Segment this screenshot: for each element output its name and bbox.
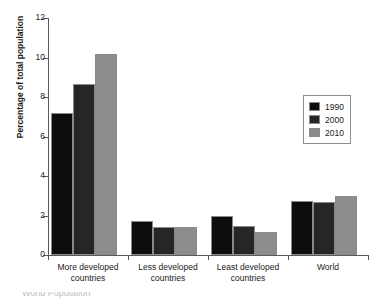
x-axis-label-line2: countries [48, 273, 128, 284]
bar-1990-less-developed-countries [131, 221, 153, 255]
x-axis-label-2: Least developedcountries [208, 262, 288, 284]
legend-label: 2010 [325, 128, 344, 138]
x-axis-label-0: More developedcountries [48, 262, 128, 284]
x-axis-label-3: World [288, 262, 368, 273]
y-axis-tick-label: 12 [36, 12, 45, 22]
legend-swatch-icon [309, 128, 320, 137]
y-axis-tick-label: 2 [40, 210, 45, 220]
bar-2010-least-developed-countries [255, 232, 277, 255]
x-axis-tick-mark [208, 255, 209, 260]
legend-label: 1990 [325, 102, 344, 112]
bar-group [211, 18, 277, 255]
x-axis-tick-mark [288, 255, 289, 260]
chart-figure: Percentage of total population 024681012… [0, 0, 382, 302]
bar-2000-more-developed-countries [73, 84, 95, 255]
x-axis-label-1: Less developedcountries [128, 262, 208, 284]
x-axis-label-line2: countries [128, 273, 208, 284]
bar-2010-less-developed-countries [175, 227, 197, 255]
y-axis-tick-label: 8 [40, 91, 45, 101]
chart-caption-cutoff: World Population [0, 292, 382, 302]
y-axis-tick-label: 6 [40, 131, 45, 141]
bar-2010-world [335, 196, 357, 255]
legend-item-1990[interactable]: 1990 [309, 100, 344, 113]
x-axis-label-line1: World [288, 262, 368, 273]
y-axis-tick-label: 10 [36, 52, 45, 62]
bar-group [51, 18, 117, 255]
chart-caption-text: World Population [22, 292, 90, 298]
x-axis-tick-mark [48, 255, 49, 260]
bar-2000-world [313, 202, 335, 255]
bar-1990-least-developed-countries [211, 216, 233, 256]
x-axis-label-line1: More developed [48, 262, 128, 273]
y-axis-title: Percentage of total population [15, 0, 25, 167]
bar-1990-world [291, 201, 313, 255]
x-axis-label-line1: Least developed [208, 262, 288, 273]
y-axis-tick-label: 4 [40, 170, 45, 180]
x-axis-tick-mark [128, 255, 129, 260]
bar-1990-more-developed-countries [51, 113, 73, 255]
y-axis-tick-label: 0 [40, 249, 45, 259]
legend-swatch-icon [309, 115, 320, 124]
chart-legend: 199020002010 [303, 95, 351, 144]
legend-swatch-icon [309, 102, 320, 111]
bar-2010-more-developed-countries [95, 54, 117, 255]
legend-item-2000[interactable]: 2000 [309, 113, 344, 126]
chart-title-cutoff [0, 0, 382, 8]
y-axis-line [48, 18, 49, 255]
x-axis-label-line1: Less developed [128, 262, 208, 273]
x-axis-label-line2: countries [208, 273, 288, 284]
legend-label: 2000 [325, 115, 344, 125]
legend-item-2010[interactable]: 2010 [309, 126, 344, 139]
bar-group [131, 18, 197, 255]
x-axis-tick-mark [368, 255, 369, 260]
bar-2000-less-developed-countries [153, 227, 175, 255]
bar-2000-least-developed-countries [233, 226, 255, 255]
